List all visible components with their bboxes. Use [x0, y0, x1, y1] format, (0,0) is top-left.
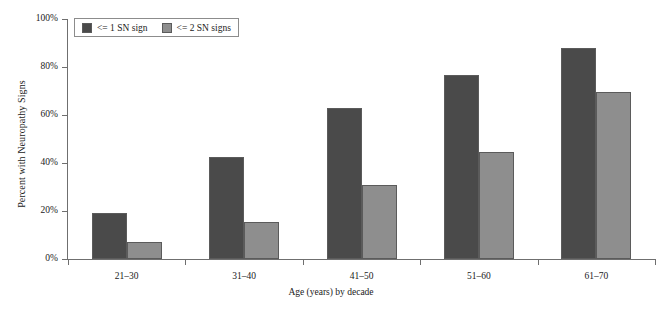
x-axis-category-label: 31–40 — [184, 271, 304, 281]
bar-chart: Percent with Neuropathy Signs 0%20%40%60… — [0, 0, 662, 310]
x-axis-tick — [420, 259, 421, 265]
y-axis-tick-label: 80% — [12, 62, 58, 72]
x-axis-tick — [655, 259, 656, 265]
y-axis-tick-label: 20% — [12, 206, 58, 216]
y-axis-tick-label: 0% — [12, 254, 58, 264]
bar-0-1 — [209, 157, 244, 259]
y-axis-tick — [62, 211, 68, 212]
x-axis-tick — [185, 259, 186, 265]
x-axis-category-label: 61–70 — [536, 271, 656, 281]
y-axis-tick-label: 100% — [12, 14, 58, 24]
x-axis-tick — [303, 259, 304, 265]
y-axis-line — [67, 19, 68, 260]
chart-legend: <= 1 SN sign<= 2 SN signs — [74, 18, 239, 37]
bar-1-3 — [479, 152, 514, 259]
y-axis-tick-label: 60% — [12, 110, 58, 120]
x-axis-category-label: 21–30 — [67, 271, 187, 281]
y-axis-tick-label: 40% — [12, 158, 58, 168]
y-axis-tick — [62, 67, 68, 68]
x-axis-category-label: 51–60 — [419, 271, 539, 281]
y-axis-title: Percent with Neuropathy Signs — [11, 24, 33, 264]
x-axis-category-label: 41–50 — [302, 271, 422, 281]
bar-0-4 — [561, 48, 596, 259]
legend-swatch-icon — [162, 23, 172, 33]
x-axis-tick — [68, 259, 69, 265]
legend-swatch-icon — [82, 23, 92, 33]
y-axis-tick — [62, 115, 68, 116]
bar-1-4 — [596, 92, 631, 259]
legend-item: <= 2 SN signs — [162, 23, 231, 33]
x-axis-tick — [538, 259, 539, 265]
y-axis-tick — [62, 19, 68, 20]
bar-1-0 — [127, 242, 162, 259]
legend-item: <= 1 SN sign — [82, 23, 148, 33]
x-axis-line — [67, 259, 656, 260]
legend-label: <= 2 SN signs — [177, 23, 231, 33]
x-axis-title: Age (years) by decade — [0, 287, 662, 297]
bar-0-3 — [444, 75, 479, 259]
y-axis-tick — [62, 163, 68, 164]
legend-label: <= 1 SN sign — [97, 23, 148, 33]
bar-1-1 — [244, 222, 279, 259]
bar-0-2 — [327, 108, 362, 259]
bar-1-2 — [362, 185, 397, 259]
bar-0-0 — [92, 213, 127, 259]
